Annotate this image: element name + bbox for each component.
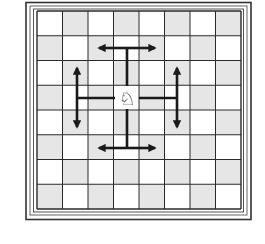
board-square (216, 135, 242, 160)
board-square (216, 160, 242, 185)
board-square (165, 11, 191, 36)
board-square (63, 135, 89, 160)
board-square (37, 61, 63, 86)
board-square (37, 36, 63, 61)
board-square (190, 184, 216, 209)
board-square (216, 110, 242, 135)
board-square (165, 160, 191, 185)
board-square (37, 110, 63, 135)
board-square (216, 85, 242, 110)
board-square (139, 160, 165, 185)
board-square (37, 85, 63, 110)
board-square (114, 11, 140, 36)
board-square (37, 160, 63, 185)
knight-piece: ♘ (116, 87, 138, 109)
board-square (190, 135, 216, 160)
board-square (190, 160, 216, 185)
board-square (88, 184, 114, 209)
board-square (139, 11, 165, 36)
chessboard-diagram: ♘ (0, 0, 265, 244)
board-square (63, 160, 89, 185)
board-square (190, 11, 216, 36)
board-square (216, 184, 242, 209)
board-square (139, 110, 165, 135)
board-square (216, 61, 242, 86)
board-square (37, 184, 63, 209)
board-square (37, 11, 63, 36)
board-square (63, 36, 89, 61)
board-square (190, 85, 216, 110)
board-square (63, 110, 89, 135)
board-square (114, 160, 140, 185)
knight-icon: ♘ (118, 87, 135, 109)
board-square (114, 184, 140, 209)
board-square (63, 61, 89, 86)
board-square (190, 61, 216, 86)
board-square (37, 135, 63, 160)
board-square (139, 61, 165, 86)
board-square (88, 11, 114, 36)
board-square (88, 110, 114, 135)
board-square (88, 160, 114, 185)
board-square (216, 11, 242, 36)
board-square (165, 184, 191, 209)
board-square (63, 184, 89, 209)
board-square (190, 110, 216, 135)
board-square (88, 61, 114, 86)
board-square (216, 36, 242, 61)
board-square (139, 184, 165, 209)
board-square (63, 11, 89, 36)
board-square (190, 36, 216, 61)
board-square (165, 135, 191, 160)
board-square (165, 36, 191, 61)
